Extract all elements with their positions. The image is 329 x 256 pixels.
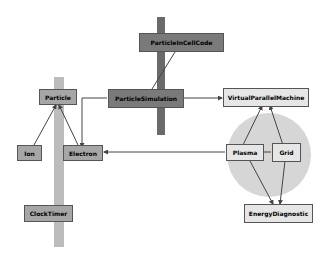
node-virtual-parallel-machine[interactable]: VirtualParallelMachine bbox=[223, 88, 309, 107]
node-label: ParticleInCellCode bbox=[151, 39, 213, 46]
node-label: Particle bbox=[45, 94, 71, 101]
node-electron[interactable]: Electron bbox=[63, 145, 103, 161]
node-label: EnergyDiagnostic bbox=[249, 210, 308, 217]
node-label: VirtualParallelMachine bbox=[228, 94, 305, 101]
node-label: Plasma bbox=[233, 149, 257, 156]
node-particle-in-cell-code[interactable]: ParticleInCellCode bbox=[139, 33, 224, 52]
node-label: Ion bbox=[24, 150, 35, 157]
node-particle[interactable]: Particle bbox=[39, 89, 77, 105]
node-label: ParticleSimulation bbox=[115, 95, 177, 102]
node-clock-timer[interactable]: ClockTimer bbox=[24, 205, 73, 222]
node-ion[interactable]: Ion bbox=[17, 145, 42, 161]
node-label: Electron bbox=[69, 150, 97, 157]
node-plasma[interactable]: Plasma bbox=[226, 144, 264, 161]
node-grid[interactable]: Grid bbox=[272, 143, 301, 162]
node-particle-simulation[interactable]: ParticleSimulation bbox=[108, 89, 184, 108]
node-label: Grid bbox=[279, 149, 293, 156]
node-label: ClockTimer bbox=[30, 210, 68, 217]
node-energy-diagnostic[interactable]: EnergyDiagnostic bbox=[244, 204, 313, 223]
